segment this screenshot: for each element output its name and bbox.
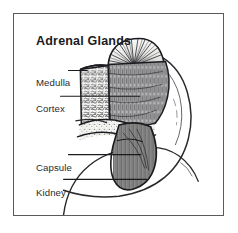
label-capsule: Capsule [36,162,72,173]
figure-title: Adrenal Glands [36,34,131,48]
adrenal-gland-structure [73,32,176,196]
anatomy-figure: Adrenal Glands Medulla Cortex Capsule Ki… [0,0,238,233]
label-medulla: Medulla [36,77,70,88]
figure-frame: Adrenal Glands Medulla Cortex Capsule Ki… [13,13,224,216]
label-cortex: Cortex [36,103,65,114]
label-kidney: Kidney [36,187,66,198]
